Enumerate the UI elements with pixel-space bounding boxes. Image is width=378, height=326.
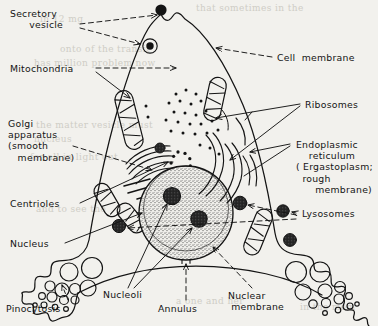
- mitochondrion: [241, 207, 275, 258]
- label-nucleus: Nucleus: [10, 238, 49, 249]
- label-cell-membrane: Cell membrane: [277, 52, 355, 63]
- leader-pinocytosis: [62, 285, 68, 300]
- nucleolus: [163, 187, 180, 204]
- label-ribosomes: Ribosomes: [305, 99, 358, 110]
- label-endoplasmic-reticulum: Endoplasmic reticulum ( Ergastoplasm; ro…: [296, 139, 373, 195]
- label-lysosomes: Lysosomes: [302, 208, 355, 219]
- label-mitochondria: Mitochondria: [10, 63, 74, 74]
- secretory-vesicle-internal: [143, 39, 157, 53]
- mitochondrion: [202, 76, 228, 123]
- lysosome: [233, 196, 247, 210]
- leader-secretory-vesicle-b: [80, 28, 140, 44]
- pinocytotic-vesicle-cluster-right: [286, 262, 360, 316]
- label-nuclear-membrane: Nuclear membrane: [228, 290, 284, 312]
- leader-lysosome-a: [292, 212, 296, 213]
- leader-secretory-vesicle-a: [80, 15, 157, 24]
- label-annulus: Annulus: [158, 303, 197, 314]
- label-secretory-vesicle: Secretory vesicle: [10, 8, 63, 30]
- label-nucleoli: Nucleoli: [103, 289, 142, 300]
- secretory-vesicle-exocytosing: [155, 4, 166, 15]
- label-centrioles: Centrioles: [10, 198, 60, 209]
- label-golgi-apparatus: Golgi apparatus (smooth membrane): [8, 118, 74, 163]
- mitochondrion: [113, 89, 145, 152]
- lysosome: [284, 234, 297, 247]
- figure-canvas: that sometimes in thein 12 mgonto of the…: [0, 0, 378, 326]
- leader-er-tail: [244, 146, 290, 176]
- lysosome: [112, 219, 125, 232]
- label-pinocytosis: Pinocytosis: [6, 303, 61, 314]
- leader-cell-membrane: [216, 48, 272, 57]
